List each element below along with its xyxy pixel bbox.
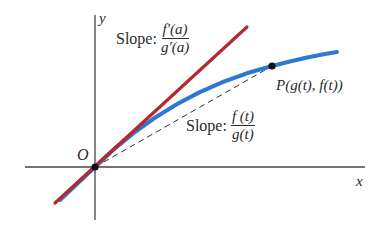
tangent-slope-numerator: f′(a) [162, 22, 189, 39]
secant-slope-numerator: f (t) [231, 109, 255, 126]
point-p [268, 62, 275, 69]
x-axis-label: x [356, 173, 363, 190]
secant-slope-annotation: Slope: f (t) g(t) [186, 109, 255, 142]
tangent-slope-denominator: g′(a) [161, 39, 189, 55]
point-p-label: P(g(t), f(t)) [276, 77, 343, 94]
tangent-slope-prefix: Slope: [116, 30, 157, 47]
y-axis-label: y [99, 10, 106, 27]
secant-slope-denominator: g(t) [232, 126, 254, 142]
secant-slope-prefix: Slope: [186, 117, 227, 134]
secant-slope-fraction: f (t) g(t) [231, 109, 255, 142]
tangent-slope-fraction: f′(a) g′(a) [161, 22, 189, 55]
tangent-slope-annotation: Slope: f′(a) g′(a) [116, 22, 189, 55]
origin-point [91, 163, 98, 170]
origin-label: O [77, 146, 89, 164]
